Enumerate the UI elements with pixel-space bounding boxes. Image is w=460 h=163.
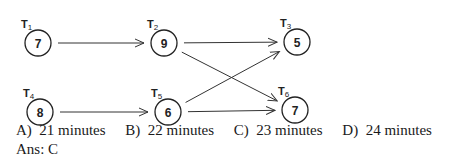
node-label: T5 [151, 87, 163, 101]
node-label: T2 [147, 18, 159, 32]
node-t5: 6T5 [151, 87, 181, 125]
edge-t2-t6 [182, 52, 277, 101]
node-label: T6 [278, 85, 290, 99]
node-duration: 6 [165, 106, 172, 120]
option-b: B) 22 minutes [125, 122, 214, 139]
node-duration: 7 [292, 104, 299, 118]
node-duration: 9 [161, 37, 168, 51]
node-duration: 8 [37, 106, 44, 120]
nodes: 7T19T25T38T46T57T6 [21, 17, 310, 125]
option-a: A) 21 minutes [16, 122, 106, 139]
answer-value: C [48, 141, 58, 157]
node-label: T1 [21, 18, 33, 32]
edge-t2-t3 [184, 42, 277, 43]
option-d: D) 24 minutes [342, 122, 432, 139]
node-label: T4 [23, 87, 35, 101]
node-t6: 7T6 [278, 85, 308, 123]
node-duration: 5 [294, 36, 301, 50]
option-c: C) 23 minutes [234, 122, 323, 139]
task-dependency-graph: 7T19T25T38T46T57T6 [0, 0, 460, 130]
edge-t5-t6 [188, 110, 275, 111]
answer-options: A) 21 minutes B) 22 minutes C) 23 minute… [16, 122, 448, 139]
answer-line: Ans: C [16, 141, 58, 158]
node-duration: 7 [35, 37, 42, 51]
answer-label: Ans: [16, 141, 44, 157]
node-label: T3 [280, 17, 292, 31]
node-t4: 8T4 [23, 87, 53, 125]
node-t1: 7T1 [21, 18, 51, 56]
node-t3: 5T3 [280, 17, 310, 55]
node-t2: 9T2 [147, 18, 177, 56]
